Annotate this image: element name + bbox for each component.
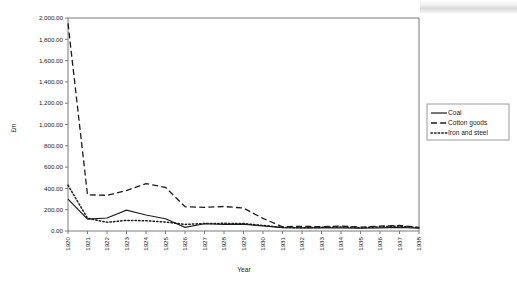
x-tick-label: 1935 <box>357 236 364 250</box>
y-tick-label: 800.00 <box>44 142 63 149</box>
x-tick-label: 1926 <box>181 236 188 250</box>
x-tick-label: 1938 <box>415 236 422 250</box>
legend-label-iron-and-steel: Iron and steel <box>448 129 488 136</box>
y-tick-label: 400.00 <box>44 185 63 192</box>
x-tick-label: 1936 <box>376 236 383 250</box>
x-tick-label: 1933 <box>318 236 325 250</box>
series-lines <box>68 23 419 228</box>
chart-figure: 0.00200.00400.00600.00800.001,000.001,20… <box>0 0 517 285</box>
x-tick-label: 1934 <box>337 236 344 250</box>
y-tick-label: 0.00 <box>51 227 64 234</box>
line-chart: 0.00200.00400.00600.00800.001,000.001,20… <box>0 0 517 285</box>
y-tick-label: 1,600.00 <box>39 57 64 64</box>
x-axis-title: Year <box>237 266 251 273</box>
x-tick-label: 1923 <box>123 236 130 250</box>
x-tick-label: 1928 <box>220 236 227 250</box>
legend-label-coal: Coal <box>448 109 462 116</box>
x-tick-label: 1927 <box>201 236 208 250</box>
y-tick-label: 1,400.00 <box>39 78 64 85</box>
x-tick-label: 1925 <box>162 236 169 250</box>
x-tick-label: 1921 <box>84 236 91 250</box>
x-tick-label: 1931 <box>279 236 286 250</box>
y-tick-label: 1,200.00 <box>39 99 64 106</box>
x-tick-label: 1920 <box>64 236 71 250</box>
y-tick-label: 200.00 <box>44 206 63 213</box>
x-tick-label: 1932 <box>298 236 305 250</box>
x-axis: 1920192119221923192419251926192719281929… <box>64 231 422 251</box>
legend-label-cotton-goods: Cotton goods <box>448 119 488 127</box>
x-tick-label: 1922 <box>103 236 110 250</box>
chart-legend: CoalCotton goodsIron and steel <box>427 104 509 140</box>
plot-frame <box>68 18 419 231</box>
y-axis: 0.00200.00400.00600.00800.001,000.001,20… <box>39 14 68 234</box>
series-line-cotton-goods <box>68 23 419 227</box>
y-axis-title: £m <box>10 123 17 133</box>
x-tick-label: 1929 <box>240 236 247 250</box>
y-tick-label: 1,000.00 <box>39 121 64 128</box>
y-tick-label: 1,800.00 <box>39 36 64 43</box>
x-tick-label: 1937 <box>396 236 403 250</box>
y-tick-label: 600.00 <box>44 163 63 170</box>
x-tick-label: 1930 <box>259 236 266 250</box>
y-tick-label: 2,000.00 <box>39 14 64 21</box>
x-tick-label: 1924 <box>142 236 149 250</box>
